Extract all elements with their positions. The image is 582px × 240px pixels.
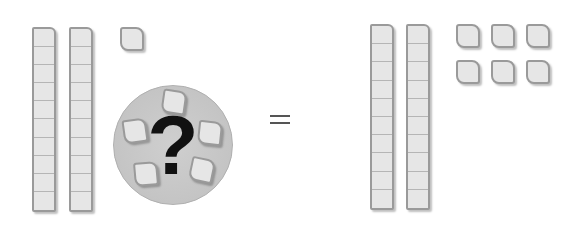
right-unit-cube-6 (526, 60, 550, 84)
unknown-circle: ? (113, 85, 233, 205)
right-unit-cube-1 (456, 24, 480, 48)
right-unit-cube-4 (456, 60, 480, 84)
equals-sign-top-bar (270, 115, 290, 117)
left-ten-rod-1 (32, 27, 56, 212)
right-ten-rod-1 (370, 24, 394, 210)
question-mark: ? (114, 86, 232, 204)
right-unit-cube-5 (491, 60, 515, 84)
right-unit-cube-2 (491, 24, 515, 48)
right-ten-rod-2 (406, 24, 430, 210)
equals-sign-bottom-bar (270, 122, 290, 124)
left-unit-cube (120, 27, 144, 51)
right-unit-cube-3 (526, 24, 550, 48)
left-ten-rod-2 (69, 27, 93, 212)
